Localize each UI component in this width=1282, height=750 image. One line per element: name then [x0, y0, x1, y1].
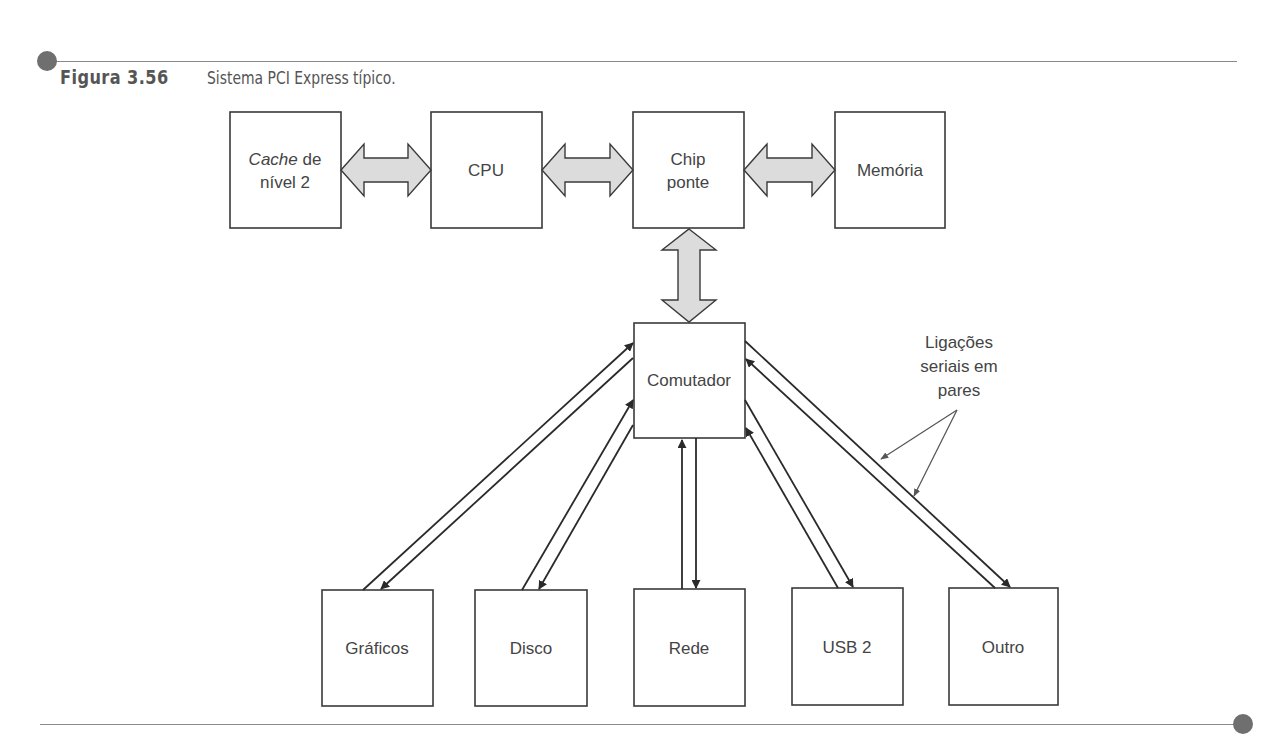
memory-label: Memória	[857, 161, 924, 180]
other-box: Outro	[949, 588, 1058, 705]
bridge-chip-box: Chip ponte	[633, 112, 744, 228]
bridge-label-line1: Chip	[671, 150, 706, 169]
switch-label: Comutador	[647, 371, 731, 390]
usb2-label: USB 2	[822, 638, 871, 657]
annotation-line1: Ligações	[925, 333, 993, 352]
cache-label-italic: Cache	[249, 150, 298, 169]
cpu-label: CPU	[468, 161, 504, 180]
network-box: Rede	[634, 589, 745, 706]
bridge-switch-bus-arrow	[662, 229, 716, 322]
cache-label-line2: nível 2	[260, 173, 310, 192]
memory-box: Memória	[835, 112, 945, 228]
serial-links-annotation: Ligações seriais em pares	[881, 333, 998, 496]
usb2-link-pair	[745, 400, 853, 588]
other-label: Outro	[982, 638, 1025, 657]
annotation-line2: seriais em	[920, 357, 997, 376]
bridge-label-line2: ponte	[667, 173, 710, 192]
svg-text:Cache de: Cache de	[249, 150, 322, 169]
pci-express-diagram: Cache de nível 2 CPU Chip ponte Memória …	[0, 0, 1282, 750]
cache-l2-box: Cache de nível 2	[230, 112, 341, 228]
usb2-box: USB 2	[792, 588, 903, 705]
other-link-pair	[745, 341, 1010, 588]
annotation-line3: pares	[938, 381, 981, 400]
bridge-memory-bus-arrow	[744, 144, 835, 196]
cache-label-rest: de	[298, 150, 322, 169]
network-label: Rede	[669, 639, 710, 658]
cpu-bridge-bus-arrow	[542, 144, 633, 196]
cpu-box: CPU	[431, 112, 542, 228]
disk-label: Disco	[510, 639, 553, 658]
cache-cpu-bus-arrow	[341, 144, 431, 196]
disk-box: Disco	[475, 590, 587, 706]
graphics-label: Gráficos	[345, 639, 408, 658]
switch-box: Comutador	[634, 323, 745, 438]
graphics-box: Gráficos	[322, 590, 433, 706]
network-link-pair	[682, 438, 696, 589]
graphics-link-pair	[363, 343, 633, 590]
